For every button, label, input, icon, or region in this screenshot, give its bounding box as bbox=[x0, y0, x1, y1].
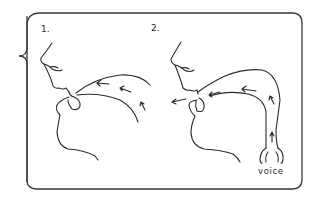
arrow-left-icon bbox=[242, 86, 256, 92]
arrow-up-icon bbox=[270, 132, 274, 142]
panel-1-head-profile bbox=[41, 43, 98, 160]
arrow-left-icon bbox=[172, 99, 186, 104]
larynx-right bbox=[278, 148, 283, 163]
larynx-left bbox=[260, 148, 266, 163]
panel-1-number: 1. bbox=[41, 24, 50, 34]
arrow-up-icon bbox=[140, 102, 145, 110]
panel-1-oral-cavity bbox=[76, 75, 150, 122]
voice-annotation: voice bbox=[258, 166, 284, 176]
panel-2-head-profile bbox=[171, 42, 240, 162]
panel-2-number: 2. bbox=[151, 23, 160, 33]
arrow-left-icon bbox=[120, 86, 131, 92]
panel-2-airflow-arrows bbox=[172, 86, 274, 142]
arrow-up-icon bbox=[269, 96, 274, 104]
brace bbox=[19, 16, 27, 182]
arrow-left-icon bbox=[97, 80, 109, 86]
